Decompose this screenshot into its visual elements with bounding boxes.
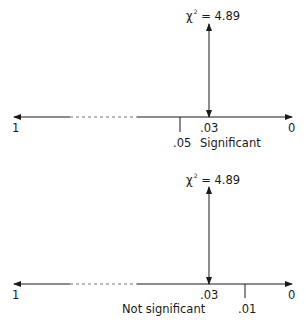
chi-square-label: χ2 = 4.89 bbox=[186, 9, 240, 23]
axis-right-label: 0 bbox=[288, 123, 295, 135]
chi-exponent: 2 bbox=[194, 172, 198, 179]
chi-exponent: 2 bbox=[194, 8, 198, 15]
chi-symbol: χ bbox=[186, 9, 193, 23]
chi-value: = 4.89 bbox=[201, 173, 240, 187]
axis-left-label: 1 bbox=[12, 290, 19, 302]
panel-1-lines bbox=[14, 24, 292, 132]
chi-symbol: χ bbox=[186, 173, 193, 187]
p-value-label: .03 bbox=[200, 290, 218, 302]
result-label: Significant bbox=[200, 138, 261, 150]
alpha-label: .05 bbox=[173, 138, 191, 150]
chi-square-label: χ2 = 4.89 bbox=[186, 173, 240, 187]
axis-right-label: 0 bbox=[288, 290, 295, 302]
result-label: Not significant bbox=[122, 304, 205, 316]
p-value-label: .03 bbox=[200, 123, 218, 135]
panel-2-lines bbox=[14, 187, 292, 298]
chi-value: = 4.89 bbox=[201, 9, 240, 23]
diagram-lines bbox=[0, 0, 306, 325]
alpha-label: .01 bbox=[238, 304, 256, 316]
axis-left-label: 1 bbox=[12, 123, 19, 135]
